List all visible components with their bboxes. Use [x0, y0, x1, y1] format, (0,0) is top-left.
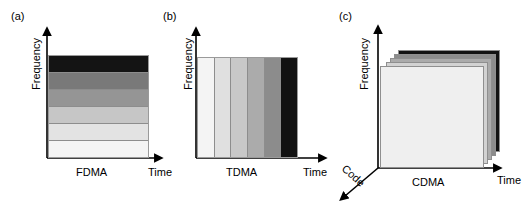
fdma-band [49, 141, 148, 157]
panel-a-label: (a) [11, 11, 24, 22]
fdma-band [49, 56, 148, 73]
panel-c-x-axis-label: Time [497, 175, 521, 186]
fdma-band [49, 107, 148, 124]
panel-b-label: (b) [163, 11, 176, 22]
panel-cdma: (c) Frequency Code CDMA Time [330, 0, 522, 202]
panel-fdma: (a) Frequency FDMA Time [0, 0, 175, 202]
tdma-slot [215, 58, 232, 157]
panel-b-y-axis-label: Frequency [183, 38, 194, 90]
tdma-slot [248, 58, 265, 157]
tdma-slot [265, 58, 282, 157]
cdma-plane [380, 66, 484, 168]
panel-b-x-axis-label: Time [303, 167, 327, 178]
tdma-slot-block [197, 57, 298, 158]
tdma-slot [281, 58, 297, 157]
multiple-access-figure: (a) Frequency FDMA Time (b) Frequency TD… [0, 0, 522, 202]
cdma-scheme-label: CDMA [412, 177, 444, 188]
fdma-band [49, 124, 148, 141]
panel-a-y-axis-label: Frequency [31, 38, 42, 90]
tdma-slot [231, 58, 248, 157]
tdma-scheme-label: TDMA [226, 167, 257, 178]
fdma-band [49, 90, 148, 107]
panel-tdma: (b) Frequency TDMA Time [155, 0, 330, 202]
fdma-scheme-label: FDMA [76, 167, 107, 178]
fdma-band [49, 73, 148, 90]
fdma-channel-block [48, 55, 149, 158]
tdma-slot [198, 58, 215, 157]
